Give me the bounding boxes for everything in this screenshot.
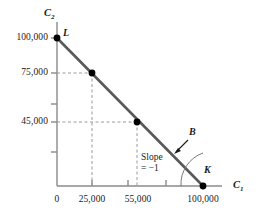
- point-K: [200, 183, 207, 190]
- x-axis-label-subscript: 1: [240, 185, 244, 193]
- y-tick-label-100000: 100,000: [0, 33, 48, 43]
- y-tick-label-75000: 75,000: [0, 68, 48, 78]
- y-axis-label-letter: C: [44, 7, 51, 18]
- guide-lines-point-25000: [57, 73, 92, 186]
- line-label-arrow: [174, 140, 188, 154]
- budget-constraint-line: [57, 38, 203, 186]
- point-25000-75000: [89, 70, 96, 77]
- x-axis-label-letter: C: [233, 179, 240, 190]
- line-label-B: B: [189, 127, 196, 137]
- x-tick-label-100000: 100,000: [176, 195, 230, 205]
- slope-annotation-line1: Slope: [141, 152, 163, 163]
- y-axis-ticks: [51, 38, 57, 152]
- point-label-K: K: [204, 165, 211, 175]
- budget-constraint-figure: C2 C1 100,000 75,000 45,000 0 25,000 55,…: [0, 0, 261, 218]
- x-tick-label-55000: 55,000: [111, 195, 165, 205]
- point-L: [54, 35, 61, 42]
- point-55000-45000: [134, 119, 141, 126]
- slope-annotation-line2: = −1: [141, 163, 163, 174]
- x-axis-label: C1: [233, 180, 244, 193]
- y-axis-label-subscript: 2: [51, 13, 55, 21]
- x-axis-ticks: [92, 180, 166, 186]
- slope-annotation: Slope = −1: [141, 152, 163, 174]
- point-label-L: L: [63, 28, 69, 38]
- y-axis-label: C2: [44, 8, 55, 21]
- guide-lines-point-55000: [57, 122, 137, 186]
- x-tick-label-0: 0: [47, 195, 67, 205]
- y-tick-label-45000: 45,000: [0, 117, 48, 127]
